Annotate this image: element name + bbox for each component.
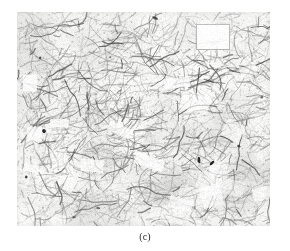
micrograph-image xyxy=(17,12,270,226)
figure-caption: (c) xyxy=(0,231,290,243)
figure-container: (c) xyxy=(0,0,290,251)
micrograph-canvas xyxy=(17,12,270,226)
